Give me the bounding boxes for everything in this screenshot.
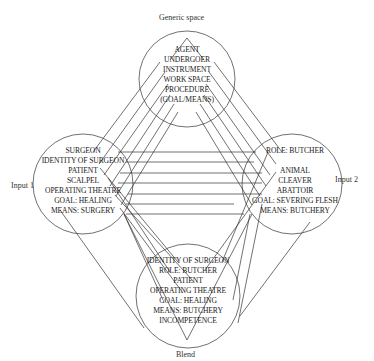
input1-element: SURGEON (23, 146, 143, 156)
generic-element: WORK SPACE (137, 75, 237, 85)
blend-element: ROLE: BUTCHER (133, 266, 243, 276)
input1-element: IDENTITY OF SURGEON (23, 156, 143, 166)
generic-space-elements: AGENT UNDERGOER INSTRUMENT WORK SPACE PR… (137, 45, 237, 105)
input2-elements: ROLE: BUTCHER ANIMAL CLEAVER ABATTOIR GO… (236, 146, 354, 216)
input2-element: ANIMAL (236, 166, 354, 176)
input2-element (236, 156, 354, 166)
blend-element: IDENTITY OF SURGEON (133, 256, 243, 266)
generic-element: (GOAL/MEANS) (137, 95, 237, 105)
input1-element: MEANS: SURGERY (23, 206, 143, 216)
generic-element: PROCEDURE (137, 85, 237, 95)
blend-label: Blend (176, 350, 195, 359)
input1-elements: SURGEON IDENTITY OF SURGEON PATIENT SCAL… (23, 146, 143, 216)
blend-element: OPERATING THEATRE (133, 286, 243, 296)
blend-element: MEANS: BUTCHERY (133, 306, 243, 316)
input2-element: MEANS: BUTCHERY (236, 206, 354, 216)
input1-element: PATIENT (23, 166, 143, 176)
input2-element: CLEAVER (236, 176, 354, 186)
input2-element: ABATTOIR (236, 186, 354, 196)
input2-element: GOAL: SEVERING FLESH (236, 196, 354, 206)
generic-space-label: Generic space (159, 13, 204, 22)
generic-element: AGENT (137, 45, 237, 55)
input1-element: SCALPEL (23, 176, 143, 186)
input2-element: ROLE: BUTCHER (236, 146, 354, 156)
blend-element: PATIENT (133, 276, 243, 286)
input1-element: OPERATING THEATRE (23, 186, 143, 196)
blend-element: GOAL: HEALING (133, 296, 243, 306)
blend-elements: IDENTITY OF SURGEON ROLE: BUTCHER PATIEN… (133, 256, 243, 326)
input1-element: GOAL: HEALING (23, 196, 143, 206)
generic-element: UNDERGOER (137, 55, 237, 65)
blend-element: INCOMPETENCE (133, 316, 243, 326)
generic-element: INSTRUMENT (137, 65, 237, 75)
